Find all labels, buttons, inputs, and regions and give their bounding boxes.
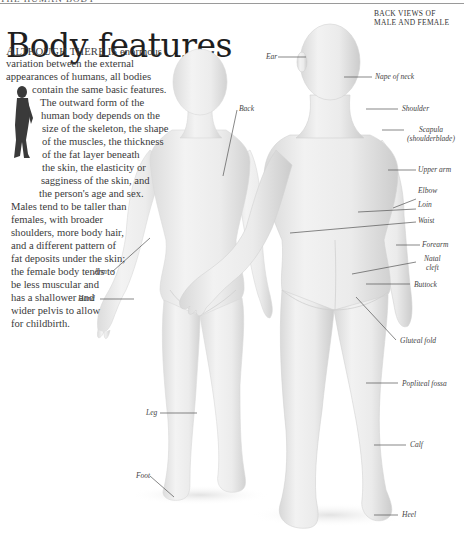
label-natal-line1: Natal — [424, 254, 441, 263]
label-waist: Waist — [418, 216, 434, 225]
intro-line: for childbirth. — [11, 317, 70, 330]
intro-line: females, with broader — [11, 213, 103, 226]
label-arm: Arm — [94, 267, 107, 276]
intro-line-1: ALTHOUGH THERE IS enormous — [6, 44, 162, 58]
intro-line: the person's age and sex. — [39, 187, 144, 200]
label-heel: Heel — [402, 510, 416, 519]
label-buttock: Buttock — [414, 280, 437, 289]
intro-line: human body depends on the — [41, 109, 160, 122]
intro-line: fat deposits under the skin; — [11, 252, 125, 265]
label-natal-cleft: Natal cleft — [424, 254, 441, 272]
label-upper-arm: Upper arm — [418, 165, 451, 174]
intro-line: appearances of humans, all bodies — [6, 70, 151, 83]
label-scapula: Scapula (shoulderblade) — [407, 125, 455, 143]
small-caps-lead: LTHOUGH THERE IS — [15, 46, 117, 57]
intro-line: wider pelvis to allow — [11, 304, 100, 317]
label-gluteal-fold: Gluteal fold — [400, 336, 436, 345]
muscle-figure-icon — [14, 86, 33, 158]
intro-line: Males tend to be taller than — [11, 200, 127, 213]
intro-line: of the muscles, the thickness — [42, 135, 164, 148]
intro-line: The outward form of the — [40, 96, 144, 109]
intro-line: the skin, the elasticity or — [42, 161, 146, 174]
floor-shadow — [130, 485, 270, 505]
label-natal-line2: cleft — [424, 263, 441, 272]
intro-text: enormous — [117, 46, 161, 57]
intro-line: variation between the external — [6, 57, 134, 70]
intro-line: and a different pattern of — [11, 239, 116, 252]
drop-cap: A — [6, 43, 15, 58]
label-nape-of-neck: Nape of neck — [375, 72, 414, 81]
label-leg: Leg — [146, 408, 157, 417]
label-hand: Hand — [78, 294, 95, 303]
label-forearm: Forearm — [422, 240, 448, 249]
intro-line: be less muscular and — [11, 278, 99, 291]
label-shoulder: Shoulder — [402, 104, 429, 113]
intro-line: contain the same basic features. — [32, 83, 166, 96]
intro-line: of the fat layer beneath — [42, 148, 140, 161]
intro-line: shoulders, more body hair, — [11, 226, 124, 239]
intro-line: sagginess of the skin, and — [41, 174, 150, 187]
label-scapula-line2: (shoulderblade) — [407, 134, 455, 143]
label-ear: Ear — [266, 52, 277, 61]
label-back: Back — [239, 104, 254, 113]
intro-line: size of the skeleton, the shape — [42, 122, 169, 135]
label-foot: Foot — [136, 471, 150, 480]
label-popliteal-fossa: Popliteal fossa — [402, 379, 447, 388]
label-elbow: Elbow — [418, 186, 437, 195]
label-scapula-line1: Scapula — [407, 125, 455, 134]
label-loin: Loin — [418, 200, 432, 209]
label-calf: Calf — [410, 440, 423, 449]
